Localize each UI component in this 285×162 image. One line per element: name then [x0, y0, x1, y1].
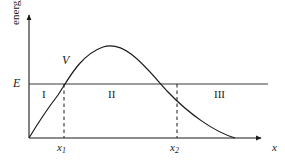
potential-curve-label: V — [62, 54, 69, 66]
potential-barrier-figure: energy E V x1 x2 x I II III — [0, 0, 285, 162]
x1-tick-label: x1 — [57, 142, 66, 155]
x2-tick-label: x2 — [170, 142, 179, 155]
x2-tick-label-subscript: 2 — [175, 146, 179, 155]
y-axis-label: energy — [10, 0, 24, 36]
region-label-i: I — [42, 89, 46, 100]
energy-level-label: E — [13, 77, 20, 89]
potential-curve — [29, 46, 235, 138]
region-label-iii: III — [214, 89, 225, 100]
diagram-canvas — [0, 0, 285, 162]
x1-tick-label-subscript: 1 — [62, 146, 66, 155]
region-label-ii: II — [108, 89, 115, 100]
x-axis-label: x — [272, 142, 277, 153]
